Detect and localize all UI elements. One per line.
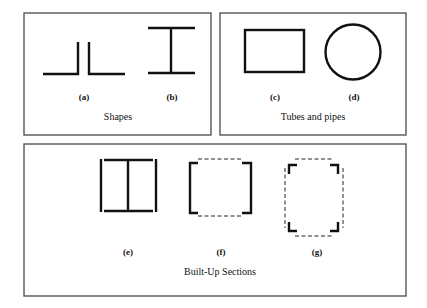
two-channels-shape bbox=[190, 159, 251, 216]
rectangular-tube-shape bbox=[245, 30, 304, 72]
label-a: (a) bbox=[79, 92, 90, 102]
angle-top-left bbox=[289, 165, 297, 174]
label-e: (e) bbox=[123, 247, 133, 257]
caption-builtup: Built-Up Sections bbox=[184, 266, 256, 277]
label-d: (d) bbox=[349, 92, 360, 102]
angle-bottom-left bbox=[289, 222, 297, 231]
angle-top-right bbox=[330, 165, 338, 174]
channel-left bbox=[190, 163, 198, 213]
panel-tubes: (c) (d) Tubes and pipes bbox=[220, 13, 406, 135]
i-beam-shape bbox=[148, 28, 195, 73]
circular-pipe-shape bbox=[326, 25, 381, 80]
double-angle-shape bbox=[43, 42, 125, 74]
channel-right bbox=[242, 163, 251, 213]
four-angles-shape bbox=[285, 159, 343, 236]
panel-shapes: (a) (b) Shapes bbox=[24, 13, 211, 135]
angle-right bbox=[89, 42, 125, 74]
caption-shapes: Shapes bbox=[104, 111, 132, 122]
label-b: (b) bbox=[167, 92, 178, 102]
panel-builtup: (e) (f) (g) Built-Up Sections bbox=[24, 144, 406, 296]
angle-left bbox=[43, 42, 78, 74]
caption-tubes: Tubes and pipes bbox=[281, 111, 346, 122]
angle-bottom-right bbox=[330, 222, 338, 231]
label-g: (g) bbox=[312, 247, 323, 257]
i-beam-with-plates-shape bbox=[101, 159, 156, 212]
cross-sections-diagram: (a) (b) Shapes (c) (d) Tubes and pipes bbox=[0, 0, 427, 308]
label-f: (f) bbox=[217, 247, 226, 257]
label-c: (c) bbox=[270, 92, 280, 102]
